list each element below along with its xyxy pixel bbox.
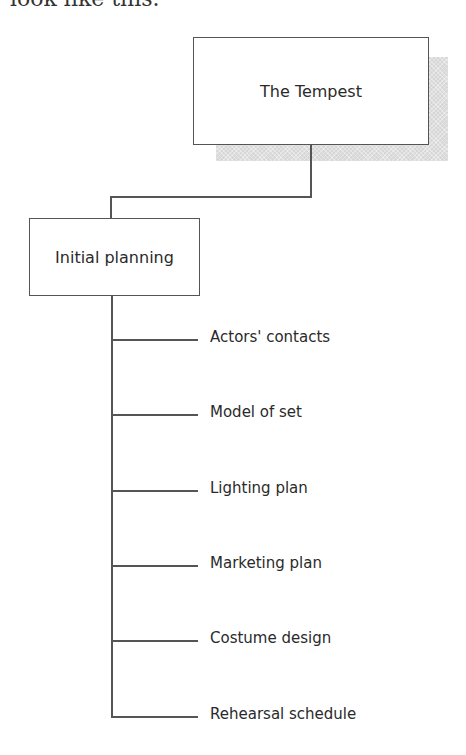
branch-line: [111, 414, 198, 416]
connector-horizontal: [110, 196, 312, 198]
branch-line: [111, 565, 198, 567]
connector-root-down: [310, 144, 312, 198]
branch-line: [111, 640, 198, 642]
task-label: Marketing plan: [210, 554, 322, 572]
branch-line: [111, 490, 198, 492]
task-label: Actors' contacts: [210, 328, 330, 346]
branch-line: [111, 716, 198, 718]
tree-trunk: [111, 295, 113, 717]
task-label: Costume design: [210, 629, 331, 647]
branch-line: [111, 339, 198, 341]
task-label: Rehearsal schedule: [210, 705, 356, 723]
heading-fragment: look like this.: [10, 0, 160, 11]
child-node-label: Initial planning: [55, 248, 174, 267]
child-node-initial-planning: Initial planning: [29, 218, 200, 296]
root-node-label: The Tempest: [260, 82, 362, 101]
root-node-the-tempest: The Tempest: [193, 37, 429, 145]
connector-child-down: [110, 196, 112, 219]
task-label: Lighting plan: [210, 479, 308, 497]
task-label: Model of set: [210, 403, 302, 421]
